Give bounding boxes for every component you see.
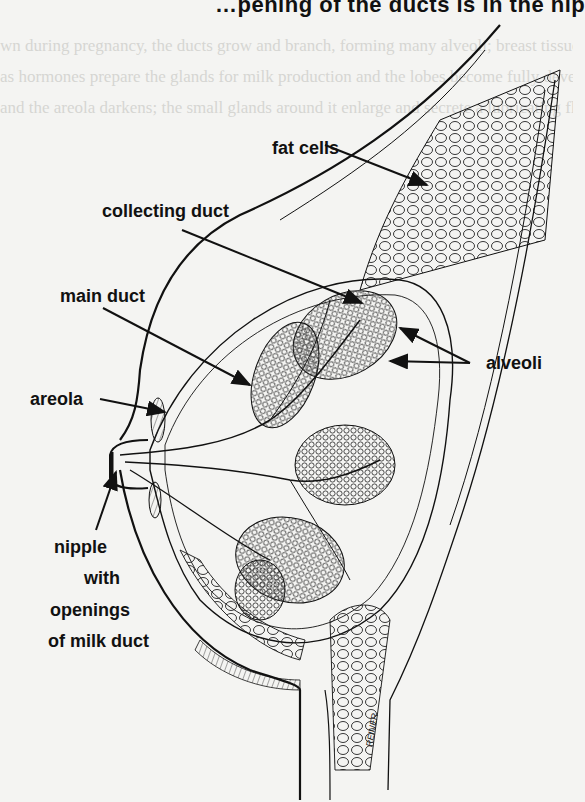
label-areola: areola <box>30 388 83 410</box>
label-nipple-line-1: nipple <box>54 536 107 558</box>
label-main-duct: main duct <box>60 285 145 307</box>
nipple-leader <box>96 472 116 530</box>
alveoli-leader-1 <box>400 328 470 363</box>
label-alveoli: alveoli <box>486 352 542 374</box>
main-duct-leader <box>103 308 250 385</box>
label-nipple-line-4: of milk duct <box>48 630 149 652</box>
label-nipple-line-2: with <box>84 567 120 589</box>
fat-cells-leader <box>325 145 427 185</box>
alveoli-leader-2 <box>390 361 470 363</box>
collecting-duct-leader <box>182 230 362 303</box>
label-nipple-line-3: openings <box>50 599 130 621</box>
label-fat-cells: fat cells <box>272 137 339 159</box>
label-collecting-duct: collecting duct <box>102 200 229 222</box>
